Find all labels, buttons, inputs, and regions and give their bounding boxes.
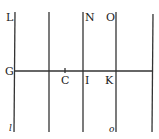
label-o: O (106, 12, 115, 23)
vertical-line-5 (152, 14, 153, 132)
label-g: G (5, 66, 14, 77)
label-l: L (6, 12, 13, 23)
label-o-lower: o (109, 125, 114, 134)
label-c: C (61, 75, 69, 86)
label-i: I (85, 75, 89, 86)
diagram-lines (0, 0, 159, 139)
label-l-lower: l (9, 124, 12, 133)
label-k: K (105, 75, 113, 86)
vertical-line-l (14, 12, 15, 132)
label-n: N (85, 12, 95, 23)
